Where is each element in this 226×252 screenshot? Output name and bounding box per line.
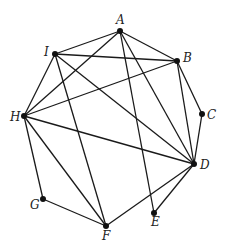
node-h (21, 113, 27, 119)
node-label-c: C (207, 108, 216, 122)
edge-c-d (194, 114, 202, 164)
node-label-d: D (199, 158, 210, 172)
edge-i-d (55, 54, 194, 164)
node-label-a: A (115, 13, 125, 27)
node-label-f: F (101, 229, 111, 243)
node-i (52, 51, 58, 57)
edge-a-h (24, 31, 120, 116)
labels-layer: ABCDEFGHI (9, 13, 216, 243)
edge-i-f (55, 54, 106, 226)
edge-i-b (55, 54, 177, 61)
node-d (191, 161, 197, 167)
edge-a-i (55, 31, 120, 54)
node-a (117, 28, 123, 34)
node-g (40, 196, 46, 202)
node-label-e: E (150, 215, 160, 229)
node-label-g: G (30, 198, 40, 212)
node-label-b: B (182, 51, 192, 65)
node-label-i: I (43, 45, 49, 59)
node-c (199, 111, 205, 117)
graph-diagram: ABCDEFGHI (0, 0, 226, 252)
node-b (174, 58, 180, 64)
edge-h-d (24, 116, 194, 164)
node-label-h: H (9, 110, 21, 124)
edge-f-d (106, 164, 194, 226)
